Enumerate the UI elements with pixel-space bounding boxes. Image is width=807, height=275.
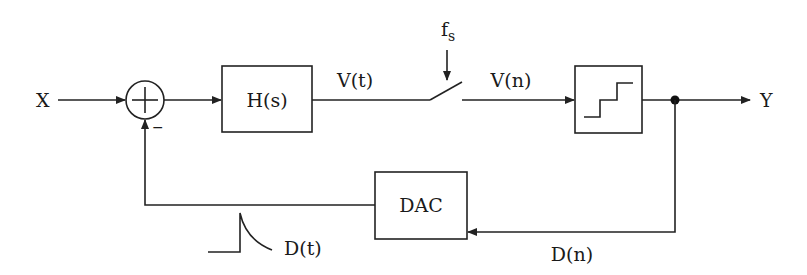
dn-label: D(n) [551, 243, 593, 265]
output-label: Y [759, 89, 773, 111]
quantizer-block [575, 66, 642, 133]
minus-sign: − [152, 119, 164, 135]
fs-label: fs [441, 18, 455, 44]
vt-label: V(t) [336, 69, 373, 91]
pulse-waveform-icon [208, 213, 272, 252]
block-diagram: X − H(s) V(t) fs V(n) Y D(n) DAC D(t) [0, 0, 807, 275]
vn-label: V(n) [490, 69, 532, 91]
input-label: X [36, 89, 50, 111]
feedback-dn-path [468, 100, 675, 232]
filter-label: H(s) [246, 89, 287, 111]
dt-label: D(t) [284, 237, 322, 259]
sampling-switch [430, 82, 462, 100]
summing-junction [126, 81, 164, 119]
dac-label: DAC [399, 194, 443, 216]
